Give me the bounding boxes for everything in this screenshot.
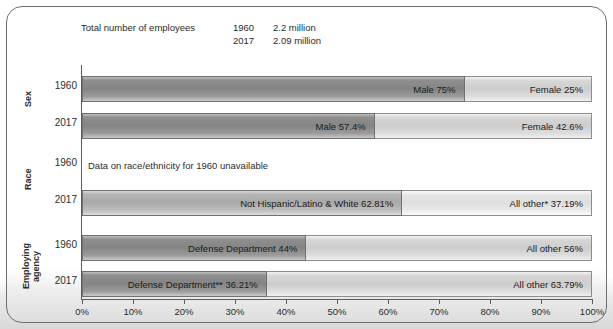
bar-row-agency-2017: Defense Department** 36.21% All other 63… bbox=[82, 271, 592, 297]
x-tick bbox=[388, 299, 389, 304]
group-label-employing-agency: Employing agency bbox=[21, 235, 43, 297]
x-tick bbox=[286, 299, 287, 304]
bar-label: Female 42.6% bbox=[522, 121, 583, 132]
year-label-race-2017: 2017 bbox=[45, 194, 77, 205]
bar-segment-sex-1960-female[interactable]: Female 25% bbox=[465, 76, 593, 102]
x-tick bbox=[541, 299, 542, 304]
bar-row-sex-2017: Male 57.4% Female 42.6% bbox=[82, 113, 592, 139]
x-tick-label: 0% bbox=[75, 306, 89, 317]
bar-segment-race-2017-all-other[interactable]: All other* 37.19% bbox=[402, 190, 592, 216]
bar-segment-race-2017-not-hispanic-white[interactable]: Not Hispanic/Latino & White 62.81% bbox=[82, 190, 402, 216]
x-tick-label: 40% bbox=[276, 306, 295, 317]
group-label-sex: Sex bbox=[23, 69, 39, 129]
x-tick-label: 10% bbox=[123, 306, 142, 317]
x-tick bbox=[592, 299, 593, 304]
x-tick-label: 50% bbox=[327, 306, 346, 317]
bar-label: Female 25% bbox=[530, 84, 583, 95]
plot-area: Male 75% Female 25% Male 57.4% Female 42… bbox=[82, 65, 592, 298]
x-tick-label: 60% bbox=[378, 306, 397, 317]
bar-label: Not Hispanic/Latino & White 62.81% bbox=[240, 198, 393, 209]
x-tick bbox=[490, 299, 491, 304]
x-tick bbox=[235, 299, 236, 304]
x-tick bbox=[337, 299, 338, 304]
bar-label: Defense Department** 36.21% bbox=[128, 279, 258, 290]
bar-row-sex-1960: Male 75% Female 25% bbox=[82, 76, 592, 102]
year-label-agency-1960: 1960 bbox=[45, 239, 77, 250]
year-label-agency-2017: 2017 bbox=[45, 275, 77, 286]
bar-row-race-1960: Data on race/ethnicity for 1960 unavaila… bbox=[82, 153, 592, 179]
year-label-sex-1960: 1960 bbox=[45, 80, 77, 91]
race-1960-unavailable-note: Data on race/ethnicity for 1960 unavaila… bbox=[88, 160, 268, 171]
year-label-race-1960: 1960 bbox=[45, 157, 77, 168]
bar-segment-agency-2017-defense[interactable]: Defense Department** 36.21% bbox=[82, 271, 267, 297]
group-label-race: Race bbox=[23, 149, 39, 209]
note-row: Total number of employees 1960 2.2 milli… bbox=[81, 21, 321, 34]
note-label: Total number of employees bbox=[81, 21, 233, 34]
bar-segment-agency-2017-all-other[interactable]: All other 63.79% bbox=[267, 271, 592, 297]
bar-label: Defense Department 44% bbox=[188, 243, 297, 254]
note-row: 2017 2.09 million bbox=[81, 34, 321, 47]
bar-segment-sex-2017-female[interactable]: Female 42.6% bbox=[375, 113, 592, 139]
bar-label: All other 56% bbox=[526, 243, 583, 254]
x-tick-label: 30% bbox=[225, 306, 244, 317]
bar-segment-agency-1960-all-other[interactable]: All other 56% bbox=[306, 235, 592, 261]
x-tick-label: 20% bbox=[174, 306, 193, 317]
x-tick-label: 100% bbox=[580, 306, 604, 317]
total-employees-note: Total number of employees 1960 2.2 milli… bbox=[81, 21, 321, 47]
x-tick bbox=[184, 299, 185, 304]
note-value-1960: 2.2 million bbox=[273, 21, 316, 34]
x-tick-label: 80% bbox=[480, 306, 499, 317]
bar-segment-agency-1960-defense[interactable]: Defense Department 44% bbox=[82, 235, 306, 261]
bar-row-race-2017: Not Hispanic/Latino & White 62.81% All o… bbox=[82, 190, 592, 216]
note-label-spacer bbox=[81, 34, 233, 47]
note-year-2017: 2017 bbox=[233, 34, 273, 47]
bar-label: All other* 37.19% bbox=[510, 198, 583, 209]
x-tick-label: 90% bbox=[531, 306, 550, 317]
note-year-1960: 1960 bbox=[233, 21, 273, 34]
bar-row-agency-1960: Defense Department 44% All other 56% bbox=[82, 235, 592, 261]
bar-label: Male 75% bbox=[413, 84, 455, 95]
note-value-2017: 2.09 million bbox=[273, 34, 321, 47]
chart-panel: Total number of employees 1960 2.2 milli… bbox=[6, 6, 607, 323]
x-tick-label: 70% bbox=[429, 306, 448, 317]
year-label-sex-2017: 2017 bbox=[45, 117, 77, 128]
bar-label: All other 63.79% bbox=[513, 279, 583, 290]
bar-label: Male 57.4% bbox=[316, 121, 366, 132]
x-tick bbox=[133, 299, 134, 304]
bar-segment-sex-1960-male[interactable]: Male 75% bbox=[82, 76, 465, 102]
chart-root: Total number of employees 1960 2.2 milli… bbox=[0, 0, 613, 329]
bar-segment-sex-2017-male[interactable]: Male 57.4% bbox=[82, 113, 375, 139]
x-tick bbox=[82, 299, 83, 304]
x-tick bbox=[439, 299, 440, 304]
